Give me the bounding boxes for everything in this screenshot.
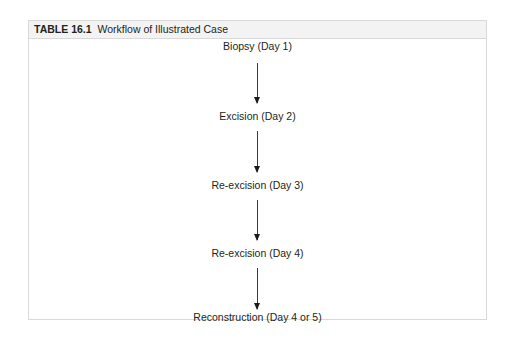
step-excision: Excision (Day 2) (29, 110, 486, 123)
down-arrow-icon (257, 268, 258, 309)
step-re-excision-day-3: Re-excision (Day 3) (29, 179, 486, 192)
workflow-diagram: Biopsy (Day 1) Excision (Day 2) Re-excis… (29, 21, 486, 319)
step-biopsy: Biopsy (Day 1) (29, 40, 486, 53)
step-reconstruction: Reconstruction (Day 4 or 5) (29, 311, 486, 324)
workflow-table: TABLE 16.1 Workflow of Illustrated Case … (28, 20, 487, 320)
down-arrow-icon (257, 131, 258, 172)
down-arrow-icon (257, 200, 258, 240)
step-re-excision-day-4: Re-excision (Day 4) (29, 247, 486, 260)
down-arrow-icon (257, 63, 258, 103)
